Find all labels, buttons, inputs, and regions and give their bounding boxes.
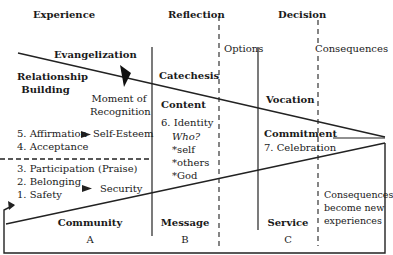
step-3: 3. Participation (Praise) — [17, 164, 138, 174]
letter-b: B — [175, 235, 195, 245]
outcome-label: Consequences become new experiences — [324, 188, 393, 227]
security-arrow-icon — [82, 185, 92, 192]
letter-a: A — [80, 235, 100, 245]
who-others: *others — [172, 158, 209, 168]
options-label: Options — [224, 44, 263, 54]
header-reflection: Reflection — [168, 10, 225, 20]
commitment-label: Commitment — [264, 129, 337, 139]
evangelization-label: Evangelization — [54, 50, 137, 60]
relationship-building-label: Relationship Building — [17, 70, 74, 96]
step-4: 4. Acceptance — [17, 142, 88, 152]
return-arrow-icon — [8, 201, 15, 210]
footer-community: Community — [50, 218, 130, 228]
self-esteem-label: Self-Esteem — [93, 129, 153, 139]
celebration-label: 7. Celebration — [264, 143, 336, 153]
step-2: 2. Belonging — [17, 177, 81, 187]
step-1: 1. Safety — [17, 190, 62, 200]
recognition-arrow-icon — [120, 65, 131, 87]
footer-message: Message — [155, 218, 215, 228]
step-5: 5. Affirmation — [17, 129, 87, 139]
security-label: Security — [100, 184, 142, 194]
who-god: *God — [172, 171, 197, 181]
vocation-label: Vocation — [266, 95, 314, 105]
header-experience: Experience — [33, 10, 95, 20]
consequences-label: Consequences — [314, 44, 389, 54]
moment-of-recognition-label: Moment of Recognition — [90, 92, 148, 118]
content-label: Content — [161, 100, 206, 110]
footer-service: Service — [262, 218, 314, 228]
letter-c: C — [278, 235, 298, 245]
catechesis-label: Catechesis — [159, 71, 219, 81]
identity-label: 6. Identity — [161, 118, 213, 128]
who-label: Who? — [172, 132, 200, 142]
header-decision: Decision — [278, 10, 326, 20]
who-self: *self — [172, 145, 195, 155]
